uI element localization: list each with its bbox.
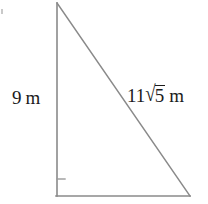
square-root-icon: √5 [145, 85, 165, 105]
radicand-value: 5 [155, 85, 166, 105]
vertical-leg-value: 9 [12, 87, 22, 108]
vertical-leg-label: 9m [12, 88, 40, 107]
hypotenuse-unit: m [169, 85, 184, 106]
geometry-figure: 9m 11√5m [0, 0, 208, 204]
vertical-leg-unit: m [26, 87, 41, 108]
hypotenuse-label: 11√5m [127, 85, 184, 105]
hypotenuse-coefficient: 11 [127, 85, 145, 106]
corner-artifact-mark [1, 9, 3, 14]
